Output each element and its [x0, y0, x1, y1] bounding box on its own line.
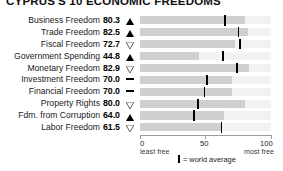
freedom-label: Fdm. from Corruption — [18, 110, 100, 122]
freedom-label: Fiscal Freedom — [41, 39, 100, 51]
triangle-up-filled-icon — [124, 27, 135, 37]
freedom-score: 80.0 — [96, 98, 120, 110]
page-title: CYPRUS'S 10 ECONOMIC FREEDOMS — [6, 0, 221, 7]
legend: = world average — [178, 155, 236, 164]
freedom-label: Business Freedom — [28, 15, 100, 27]
x-axis: 0 50 100 least free most free — [140, 135, 272, 140]
freedom-score: 44.8 — [96, 51, 120, 63]
score-bar — [140, 64, 249, 72]
freedom-score: 64.0 — [96, 110, 120, 122]
freedom-label: Trade Freedom — [41, 27, 100, 39]
axis-line — [140, 135, 272, 136]
world-average-tick — [236, 63, 238, 73]
freedom-score: 72.7 — [96, 39, 120, 51]
freedom-label: Government Spending — [14, 51, 100, 63]
score-bar — [140, 76, 232, 84]
world-average-tick — [224, 15, 226, 25]
dash-icon — [124, 74, 135, 80]
bar-plot-area — [140, 15, 272, 135]
triangle-down-hollow-icon — [124, 39, 135, 49]
freedom-label: Financial Freedom — [29, 86, 100, 98]
freedom-label: Monetary Freedom — [27, 63, 100, 75]
triangle-down-hollow-icon — [124, 63, 135, 73]
axis-label-mid: 50 — [200, 139, 208, 148]
freedom-label: Labor Freedom — [41, 122, 100, 134]
axis-sublabel-least-free: least free — [140, 147, 170, 156]
dash-icon — [124, 86, 135, 92]
freedom-score: 61.5 — [96, 122, 120, 134]
axis-sublabel-most-free: most free — [244, 147, 274, 156]
triangle-down-hollow-icon — [124, 122, 135, 132]
world-average-tick — [222, 51, 224, 61]
freedom-score: 80.3 — [96, 15, 120, 27]
triangle-up-filled-icon — [124, 110, 135, 120]
score-bar — [140, 40, 235, 48]
score-bar — [140, 100, 245, 108]
score-bar — [140, 123, 221, 131]
freedom-label: Investment Freedom — [21, 74, 100, 86]
triangle-up-filled-icon — [124, 15, 135, 25]
triangle-down-hollow-icon — [124, 98, 135, 108]
freedom-score: 70.0 — [96, 74, 120, 86]
economic-freedoms-chart: CYPRUS'S 10 ECONOMIC FREEDOMS Business F… — [0, 0, 283, 171]
world-average-marker-icon — [178, 155, 180, 163]
world-average-tick — [239, 39, 241, 49]
score-bar — [140, 28, 248, 36]
freedom-label: Property Rights — [41, 98, 100, 110]
freedom-score: 70.0 — [96, 86, 120, 98]
world-average-tick — [197, 99, 199, 109]
legend-label: = world average — [183, 155, 236, 164]
world-average-tick — [204, 87, 206, 97]
freedom-score: 82.9 — [96, 63, 120, 75]
freedom-score: 82.5 — [96, 27, 120, 39]
world-average-tick — [221, 122, 223, 132]
score-bar — [140, 88, 232, 96]
score-bar — [140, 16, 245, 24]
score-bar — [140, 52, 199, 60]
score-bar — [140, 111, 224, 119]
world-average-tick — [238, 27, 240, 37]
triangle-up-filled-icon — [124, 51, 135, 61]
world-average-tick — [193, 110, 195, 120]
world-average-tick — [206, 75, 208, 85]
